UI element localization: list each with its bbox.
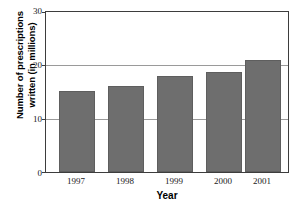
bar-series bbox=[46, 12, 288, 172]
bar-2000 bbox=[206, 72, 242, 172]
y-axis-tick-labels: 30 20 10 0 bbox=[16, 0, 42, 206]
bar-1998 bbox=[108, 86, 144, 172]
x-tick-label-1999: 1999 bbox=[150, 176, 198, 186]
y-tickmark-0 bbox=[42, 172, 46, 173]
bar-2001 bbox=[245, 60, 281, 172]
x-tick-label-1998: 1998 bbox=[101, 176, 149, 186]
bar-1999 bbox=[157, 76, 193, 172]
bar-1997 bbox=[59, 91, 95, 172]
bar-chart: Number of prescriptionswritten (in milli… bbox=[0, 0, 300, 206]
y-tick-label: 30 bbox=[20, 6, 42, 16]
x-tick-label-2001: 2001 bbox=[238, 176, 286, 186]
y-tick-label: 0 bbox=[20, 168, 42, 178]
x-tick-label-1997: 1997 bbox=[52, 176, 100, 186]
x-axis-title: Year bbox=[45, 190, 289, 201]
y-tick-label: 10 bbox=[20, 114, 42, 124]
plot-area bbox=[45, 11, 289, 173]
y-tick-label: 20 bbox=[20, 60, 42, 70]
x-axis-tick-labels: 1997 1998 1999 2000 2001 bbox=[45, 176, 289, 190]
